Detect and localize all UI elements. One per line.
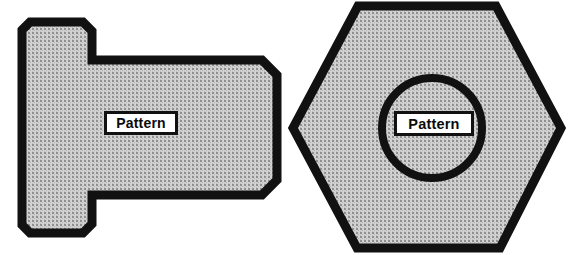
figure-canvas: Pattern Pattern bbox=[0, 0, 574, 255]
pattern-label-right-text: Pattern bbox=[408, 116, 459, 132]
figure-svg bbox=[0, 0, 574, 255]
pattern-label-left: Pattern bbox=[104, 111, 178, 135]
pattern-label-right: Pattern bbox=[394, 111, 474, 136]
pattern-label-left-text: Pattern bbox=[116, 115, 166, 131]
